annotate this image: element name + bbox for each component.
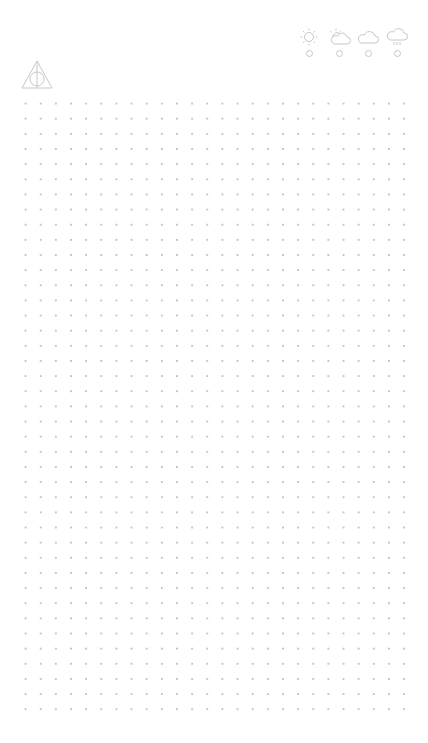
rainy-radio[interactable]	[394, 50, 401, 57]
sun-icon	[298, 28, 320, 48]
weather-option-rainy[interactable]	[386, 28, 410, 58]
weather-option-cloudy[interactable]	[357, 28, 381, 58]
weather-option-sunny[interactable]	[298, 28, 322, 58]
weather-selector	[298, 28, 410, 58]
dot-grid-writing-area[interactable]	[18, 96, 410, 722]
sun-cloud-icon	[328, 28, 352, 48]
weather-option-partly-cloudy[interactable]	[328, 28, 352, 58]
cloudy-radio[interactable]	[365, 50, 372, 57]
partly-cloudy-radio[interactable]	[336, 50, 343, 57]
sunny-radio[interactable]	[306, 50, 313, 57]
rain-cloud-icon	[386, 28, 410, 48]
cloud-icon	[357, 28, 381, 48]
deathly-hallows-logo-icon	[20, 60, 54, 90]
